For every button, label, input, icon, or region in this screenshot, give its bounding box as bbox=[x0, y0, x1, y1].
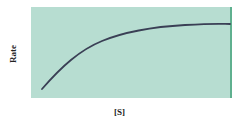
rate-curve bbox=[0, 0, 242, 122]
x-axis-label: [S] bbox=[114, 107, 125, 117]
y-axis-label: Rate bbox=[8, 45, 18, 63]
